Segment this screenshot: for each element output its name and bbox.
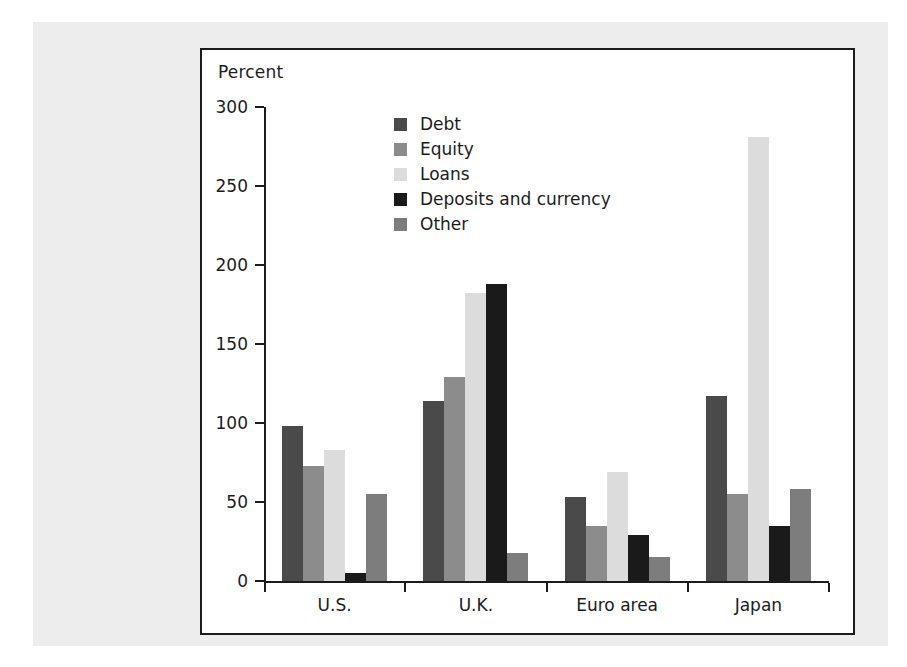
category-label: Japan xyxy=(735,595,782,615)
bar xyxy=(649,557,670,581)
legend-swatch-icon xyxy=(394,193,407,206)
legend-item: Deposits and currency xyxy=(394,187,611,212)
category-label: U.K. xyxy=(459,595,493,615)
bar xyxy=(706,396,727,581)
y-tick-mark xyxy=(255,501,264,503)
y-tick-label: 250 xyxy=(202,176,248,196)
x-tick-mark xyxy=(264,583,266,592)
y-tick-label: 200 xyxy=(202,255,248,275)
bar xyxy=(507,553,528,581)
bar xyxy=(423,401,444,581)
legend-item: Equity xyxy=(394,137,611,162)
bar xyxy=(282,426,303,581)
bar xyxy=(607,472,628,581)
y-axis-line xyxy=(264,107,266,581)
legend-item: Loans xyxy=(394,162,611,187)
y-tick-mark xyxy=(255,185,264,187)
y-tick-label: 300 xyxy=(202,97,248,117)
bar xyxy=(324,450,345,581)
screenshot-root: Percent 050100150200250300 U.S.U.K.Euro … xyxy=(0,0,907,667)
bar xyxy=(303,466,324,581)
chart-panel: Percent 050100150200250300 U.S.U.K.Euro … xyxy=(200,48,855,635)
y-tick-mark xyxy=(255,580,264,582)
legend-swatch-icon xyxy=(394,143,407,156)
chart-legend: DebtEquityLoansDeposits and currencyOthe… xyxy=(394,112,611,237)
category-label: Euro area xyxy=(576,595,658,615)
legend-label: Loans xyxy=(420,166,470,183)
bar xyxy=(628,535,649,581)
x-tick-mark xyxy=(546,583,548,592)
y-tick-label: 0 xyxy=(202,571,248,591)
y-tick-label: 100 xyxy=(202,413,248,433)
y-tick-label: 150 xyxy=(202,334,248,354)
y-tick-mark xyxy=(255,106,264,108)
bar xyxy=(444,377,465,581)
legend-item: Other xyxy=(394,212,611,237)
y-tick-mark xyxy=(255,343,264,345)
legend-swatch-icon xyxy=(394,218,407,231)
bar xyxy=(748,137,769,581)
y-tick-mark xyxy=(255,264,264,266)
legend-swatch-icon xyxy=(394,118,407,131)
x-tick-mark xyxy=(687,583,689,592)
category-label: U.S. xyxy=(318,595,352,615)
bar xyxy=(790,489,811,581)
x-tick-mark xyxy=(404,583,406,592)
legend-label: Equity xyxy=(420,141,474,158)
legend-label: Other xyxy=(420,216,468,233)
bar xyxy=(366,494,387,581)
legend-label: Debt xyxy=(420,116,461,133)
bar xyxy=(586,526,607,581)
bar xyxy=(345,573,366,581)
bar xyxy=(769,526,790,581)
legend-swatch-icon xyxy=(394,168,407,181)
bar xyxy=(727,494,748,581)
y-tick-label: 50 xyxy=(202,492,248,512)
legend-label: Deposits and currency xyxy=(420,191,611,208)
x-tick-mark xyxy=(828,583,830,592)
y-tick-mark xyxy=(255,422,264,424)
bar xyxy=(565,497,586,581)
bar xyxy=(486,284,507,581)
bar xyxy=(465,293,486,581)
legend-item: Debt xyxy=(394,112,611,137)
